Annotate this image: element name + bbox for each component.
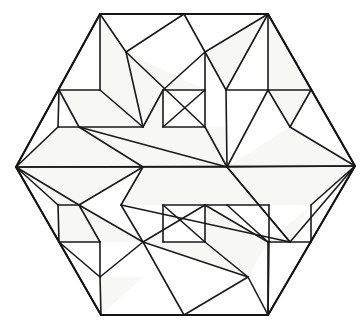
hexagon-dissection-diagram	[0, 0, 360, 329]
edge-bl-ag-to-corner	[100, 277, 101, 315]
edge-br-v-vertical-corner	[268, 242, 269, 315]
edge-tr-l-to-q	[226, 90, 227, 167]
hexagon-figure-canvas	[0, 0, 360, 329]
edge-tl-b-to-d	[58, 90, 59, 127]
edge-bl-ae-to-af	[58, 205, 59, 242]
edge-right-upper-b	[227, 166, 355, 167]
